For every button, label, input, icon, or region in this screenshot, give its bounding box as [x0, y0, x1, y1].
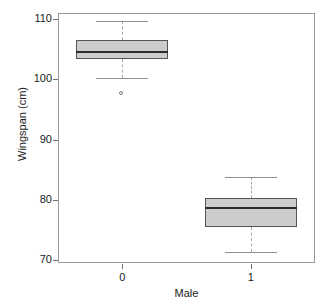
whisker-cap-upper: [96, 21, 148, 22]
y-tick-label: 100: [22, 73, 52, 84]
whisker-upper: [122, 21, 123, 40]
box-1: [205, 198, 297, 227]
boxplot-figure: Wingspan (cm) 708090100110 01 Male: [0, 0, 327, 307]
y-tick-label: 80: [22, 194, 52, 205]
y-tick-label: 70: [22, 254, 52, 265]
y-tick-label: 90: [22, 134, 52, 145]
whisker-lower: [251, 227, 252, 252]
y-tick-label: 110: [22, 13, 52, 24]
median-line-1: [205, 207, 297, 209]
x-axis-tick: [122, 264, 123, 269]
x-tick-label: 0: [110, 271, 134, 283]
whisker-upper: [251, 177, 252, 198]
whisker-cap-upper: [225, 177, 277, 178]
whisker-cap-lower: [225, 252, 277, 253]
x-tick-label: 1: [239, 271, 263, 283]
whisker-lower: [122, 59, 123, 78]
whisker-cap-lower: [96, 78, 148, 79]
x-axis-tick: [251, 264, 252, 269]
median-line-0: [76, 51, 168, 53]
box-0: [76, 40, 168, 59]
x-axis-title: Male: [58, 287, 315, 299]
